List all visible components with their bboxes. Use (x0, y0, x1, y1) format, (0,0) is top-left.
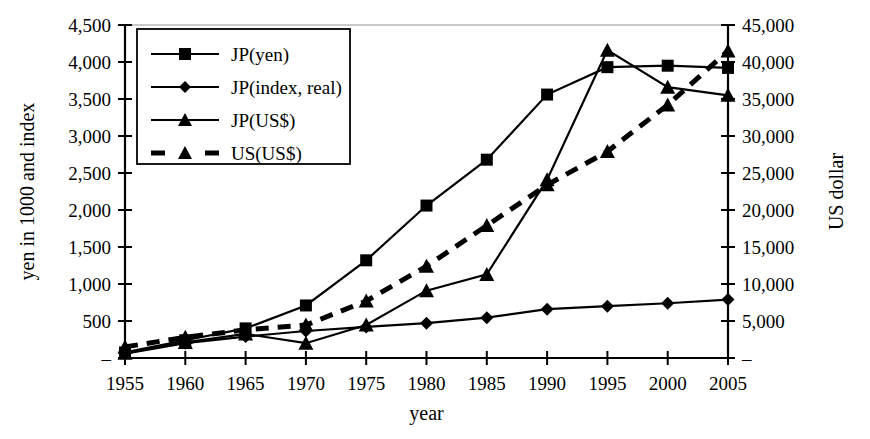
data-point-triangle (660, 97, 675, 111)
chart-canvas: –5001,0001,5002,0002,5003,0003,5004,0004… (0, 0, 870, 439)
legend-label: JP(US$) (231, 110, 295, 132)
left-axis-tick-label: 3,000 (68, 126, 111, 147)
data-point-triangle (359, 318, 374, 332)
x-axis-tick-label: 1960 (166, 373, 204, 394)
left-axis: –5001,0001,5002,0002,5003,0003,5004,0004… (68, 15, 132, 369)
x-axis-title: year (409, 402, 444, 425)
right-axis-tick-label: 5,000 (742, 311, 785, 332)
data-point-diamond (541, 303, 554, 316)
left-axis-tick-label: 4,500 (68, 15, 111, 36)
left-axis-tick-label: 1,000 (68, 274, 111, 295)
data-point-triangle (479, 267, 494, 281)
data-point-square (360, 254, 372, 266)
data-point-square (300, 299, 312, 311)
left-axis-tick-label: 500 (83, 311, 112, 332)
left-axis-tick-label: 4,000 (68, 52, 111, 73)
data-point-triangle (419, 259, 434, 273)
x-axis-tick-label: 1990 (528, 373, 566, 394)
legend-label: JP(yen) (231, 44, 289, 66)
data-point-square (421, 200, 433, 212)
right-axis-tick-label: 20,000 (742, 200, 794, 221)
data-point-diamond (480, 311, 493, 324)
right-axis-tick-label: – (741, 348, 752, 369)
left-axis-tick-label: – (101, 348, 112, 369)
left-axis-tick-label: 3,500 (68, 89, 111, 110)
chart-figure: –5001,0001,5002,0002,5003,0003,5004,0004… (0, 0, 870, 439)
x-axis-tick-label: 2005 (709, 373, 747, 394)
y-axis-title: yen in 1000 and index (16, 103, 39, 281)
x-axis-tick-label: 1965 (227, 373, 265, 394)
data-point-square (179, 48, 191, 60)
legend-label: JP(index, real) (231, 77, 342, 99)
data-point-square (662, 60, 674, 72)
x-axis-tick-label: 1995 (588, 373, 626, 394)
x-axis-tick-label: 2000 (649, 373, 687, 394)
right-axis-tick-label: 25,000 (742, 163, 794, 184)
left-axis-tick-label: 1,500 (68, 237, 111, 258)
right-axis-tick-label: 10,000 (742, 274, 794, 295)
x-axis-tick-label: 1975 (347, 373, 385, 394)
right-axis-tick-label: 35,000 (742, 89, 794, 110)
left-axis-tick-label: 2,500 (68, 163, 111, 184)
series-jp-index-real (119, 293, 735, 360)
right-axis-tick-label: 15,000 (742, 237, 794, 258)
data-point-square (601, 61, 613, 73)
y2-axis-title: US dollar (825, 153, 847, 231)
data-point-square (722, 62, 734, 74)
data-point-triangle (721, 43, 736, 57)
data-point-diamond (601, 300, 614, 313)
right-axis-tick-label: 40,000 (742, 52, 794, 73)
legend: JP(yen)JP(index, real)JP(US$)US(US$) (137, 29, 350, 165)
data-point-triangle (600, 43, 615, 57)
right-axis-tick-label: 45,000 (742, 15, 794, 36)
data-point-diamond (420, 317, 433, 330)
data-point-square (481, 154, 493, 166)
x-axis-tick-label: 1970 (287, 373, 325, 394)
data-point-square (541, 89, 553, 101)
data-point-triangle (660, 80, 675, 94)
right-axis-tick-label: 30,000 (742, 126, 794, 147)
legend-label: US(US$) (231, 143, 302, 165)
left-axis-tick-label: 2,000 (68, 200, 111, 221)
x-axis-tick-label: 1980 (408, 373, 446, 394)
data-point-diamond (722, 293, 735, 306)
x-axis-tick-label: 1985 (468, 373, 506, 394)
x-axis-tick-label: 1955 (106, 373, 144, 394)
x-axis: 1955196019651970197519801985199019952000… (106, 351, 747, 394)
data-point-diamond (661, 297, 674, 310)
